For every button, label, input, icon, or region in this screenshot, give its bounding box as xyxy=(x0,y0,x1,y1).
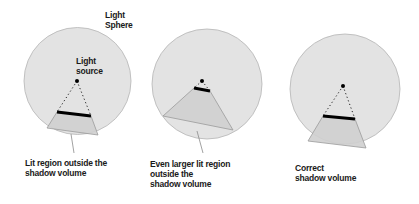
label-line: Light xyxy=(76,56,103,66)
panel-3-light-source-dot xyxy=(341,84,345,88)
panel-1-light-source-dot xyxy=(75,79,79,83)
caption-line: Lit region outside the xyxy=(25,158,107,168)
caption-panel-1: Lit region outside the shadow volume xyxy=(25,158,107,178)
panel-2-light-source-dot xyxy=(200,79,204,83)
caption-line: Correct xyxy=(295,163,356,173)
label-line: Sphere xyxy=(105,20,133,30)
caption-line: Even larger lit region xyxy=(150,159,230,169)
caption-panel-3: Correct shadow volume xyxy=(295,163,356,183)
label-light-sphere: Light Sphere xyxy=(105,10,133,30)
caption-line: outside the xyxy=(150,169,230,179)
panel-1-leader-line xyxy=(71,134,74,153)
caption-panel-2: Even larger lit region outside the shado… xyxy=(150,159,230,189)
label-light-source: Light source xyxy=(76,56,103,76)
label-line: source xyxy=(76,66,103,76)
caption-line: shadow volume xyxy=(25,168,107,178)
caption-line: shadow volume xyxy=(150,179,230,189)
label-line: Light xyxy=(105,10,133,20)
caption-line: shadow volume xyxy=(295,173,356,183)
